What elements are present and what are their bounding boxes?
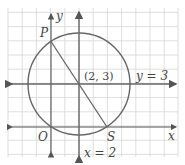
line-x2-label: x = 2: [84, 146, 116, 160]
point-P-label: P: [39, 26, 49, 40]
y-axis-label: y: [55, 9, 63, 23]
point-S-label: S: [107, 130, 115, 144]
x-axis-label: x: [168, 129, 175, 143]
point-O-label: O: [38, 130, 48, 144]
circle-diagram: y x P (2, 3) O S y = 3 x = 2: [0, 0, 185, 165]
center-label: (2, 3): [84, 70, 114, 83]
line-y3-label: y = 3: [135, 69, 168, 83]
